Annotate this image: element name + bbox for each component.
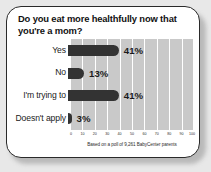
- bar-row: Doesn't apply 3%: [14, 107, 194, 130]
- bar-track: 41%: [68, 39, 194, 62]
- category-label-yes: Yes: [14, 46, 68, 56]
- bar-trying: [68, 90, 119, 101]
- bar-row: I'm trying to 41%: [14, 85, 194, 108]
- bar-rows: Yes 41% No 13% I'm trying to: [14, 39, 194, 130]
- x-tick-label: 40: [118, 132, 122, 136]
- x-tick-label: 30: [105, 132, 109, 136]
- screenshot-root: Do you eat more healthfully now that you…: [0, 0, 211, 172]
- bar-yes: [68, 45, 119, 56]
- bar-track: 3%: [68, 107, 194, 130]
- value-label-no: 13%: [89, 68, 108, 79]
- bar-row: Yes 41%: [14, 39, 194, 62]
- x-tick-label: 90: [180, 132, 184, 136]
- x-tick-label: 100: [189, 132, 195, 136]
- category-label-no: No: [14, 68, 68, 78]
- poll-result-card: Do you eat more healthfully now that you…: [6, 6, 200, 158]
- category-label-trying: I'm trying to: [14, 91, 68, 101]
- bar-chart: Yes 41% No 13% I'm trying to: [14, 39, 194, 154]
- bar-track: 41%: [68, 85, 194, 108]
- x-tick-label: 20: [93, 132, 97, 136]
- bar-track: 13%: [68, 62, 194, 85]
- x-tick-label: 60: [142, 132, 146, 136]
- x-tick-label: 50: [130, 132, 134, 136]
- chart-source-note: Based on a poll of 9,261 BabyCenter pare…: [70, 142, 194, 147]
- value-label-yes: 41%: [124, 45, 143, 56]
- x-tick-label: 0: [70, 132, 72, 136]
- x-tick-label: 70: [155, 132, 159, 136]
- x-tick-label: 80: [167, 132, 171, 136]
- bar-row: No 13%: [14, 62, 194, 85]
- category-label-doesnt-apply: Doesn't apply: [14, 114, 68, 123]
- bar-doesnt-apply: [68, 113, 72, 124]
- value-label-doesnt-apply: 3%: [77, 113, 91, 124]
- chart-title: Do you eat more healthfully now that you…: [18, 13, 190, 36]
- bar-no: [68, 68, 84, 79]
- x-axis: 0 10 20 30 40 50 60 70 80 90 100: [70, 130, 194, 141]
- x-tick-label: 10: [80, 132, 84, 136]
- value-label-trying: 41%: [124, 90, 143, 101]
